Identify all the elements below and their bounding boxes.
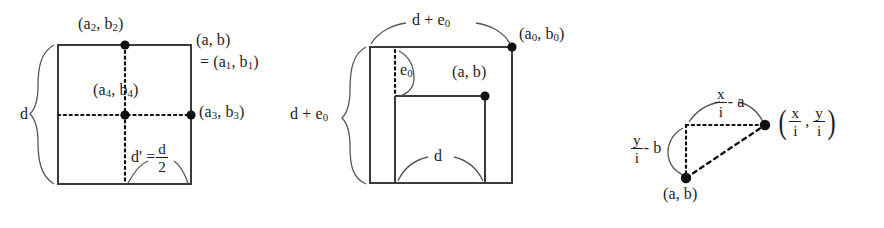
left-center-marker <box>120 110 129 119</box>
left-corner-label-line1: (a, b) <box>196 32 230 49</box>
middle-left-brace-label: d + e0 <box>290 106 328 124</box>
x-over-i-fraction: xi <box>715 86 727 119</box>
left-paren: ( <box>779 108 787 135</box>
figure-canvas: (a2, b2) (a, b) = (a1, b1) (a4, b4) (a3,… <box>0 0 884 228</box>
left-d-brace <box>30 45 54 184</box>
right-hypotenuse <box>686 125 765 178</box>
left-right-marker <box>186 110 195 119</box>
middle-outer-corner-marker <box>507 42 516 51</box>
left-right-point-label: (a3, b3) <box>199 104 244 122</box>
left-top-marker <box>120 40 129 49</box>
right-apex-label: (xi,yi) <box>777 105 837 138</box>
right-top-edge-label: xi- a <box>714 86 744 119</box>
middle-inner-corner-marker <box>480 91 489 100</box>
left-half-d-label: d' =d2 <box>131 141 169 174</box>
left-half-brace-end <box>174 161 188 183</box>
right-left-brace <box>668 128 683 175</box>
left-center-point-label: (a4, b4) <box>93 82 138 100</box>
panel-middle-geometry <box>342 23 517 184</box>
middle-bottom-brace-left <box>398 157 428 181</box>
right-apex-marker <box>760 120 770 130</box>
right-vertex-label: (a, b) <box>663 186 697 203</box>
apex-x-over-i: xi <box>789 105 801 138</box>
diagram-vector-layer <box>0 0 884 228</box>
y-over-i-fraction: yi <box>631 132 643 165</box>
middle-top-brace-label: d + e0 <box>412 12 450 30</box>
middle-e0-label: e0 <box>400 62 413 80</box>
right-vertex-marker <box>681 173 691 183</box>
left-top-point-label: (a2, b2) <box>78 16 123 34</box>
middle-outer-corner-label: (a0, b0) <box>519 26 564 44</box>
left-corner-label-line2: = (a1, b1) <box>200 54 259 72</box>
middle-inner-square <box>395 96 485 183</box>
apex-y-over-i: yi <box>813 105 825 138</box>
middle-top-brace-right <box>476 23 510 44</box>
half-d-fraction: d2 <box>156 141 168 174</box>
middle-top-brace-left <box>371 23 406 44</box>
middle-bottom-brace-label: d <box>434 148 442 165</box>
right-left-edge-label: yi- b <box>630 132 661 165</box>
right-paren: ) <box>828 108 836 135</box>
panel-left-geometry <box>30 40 196 184</box>
middle-left-brace <box>342 47 366 184</box>
left-d-label: d <box>20 106 28 123</box>
middle-inner-point-label: (a, b) <box>452 64 486 81</box>
middle-bottom-brace-right <box>454 157 483 181</box>
